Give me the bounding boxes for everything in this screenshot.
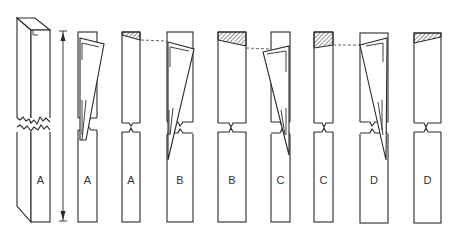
arrow-down-icon <box>61 211 66 220</box>
reference-line <box>141 40 167 41</box>
column-a-3d: A <box>16 18 52 222</box>
column-label: B <box>228 174 235 186</box>
column-label: C <box>277 174 285 186</box>
column-label: D <box>370 174 378 186</box>
column-label: A <box>127 174 135 186</box>
arrow-up-icon <box>61 32 66 41</box>
column-label: B <box>176 174 183 186</box>
column-label: C <box>320 174 328 186</box>
column-d-tilted: D <box>358 33 390 223</box>
column-a-tilted: A <box>76 32 104 222</box>
column-label: D <box>424 174 432 186</box>
column-b-tilted: B <box>165 32 195 222</box>
column-label: A <box>84 174 92 186</box>
column-c-tilted: C <box>263 32 292 222</box>
fracture-diagram: A A A <box>0 0 452 240</box>
column-a-final: A <box>121 32 142 222</box>
column-b-final: B <box>217 32 248 222</box>
column-c-final: C <box>313 32 335 222</box>
column-d-final: D <box>413 33 443 223</box>
column-label: A <box>37 174 45 186</box>
dimension-arrow <box>59 31 67 221</box>
reference-line <box>246 48 270 49</box>
